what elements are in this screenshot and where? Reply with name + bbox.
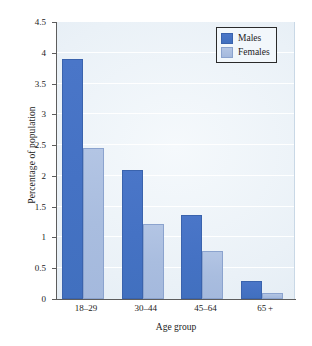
male-color-swatch	[221, 33, 233, 44]
y-axis-line	[56, 22, 57, 300]
y-tick-mark	[52, 84, 56, 85]
bar-females	[202, 251, 223, 299]
y-tick-mark	[52, 237, 56, 238]
bar-males	[181, 215, 202, 299]
bar-females	[83, 148, 104, 299]
y-tick-label: 0	[0, 295, 46, 304]
y-tick-label: 1.5	[0, 202, 46, 211]
y-tick-label: 4.5	[0, 18, 46, 27]
bar-males	[241, 281, 262, 299]
legend-label-males: Males	[238, 33, 261, 43]
gridline	[56, 113, 295, 114]
y-tick-mark	[52, 268, 56, 269]
legend-item-males: Males	[221, 31, 270, 45]
y-tick-mark	[52, 299, 56, 300]
bar-chart-figure: Percentage of population 00.511.522.533.…	[0, 0, 312, 346]
plot-right-border	[294, 22, 295, 299]
bar-males	[122, 170, 143, 299]
chart-legend: Males Females	[216, 27, 277, 63]
y-tick-label: 4	[0, 48, 46, 57]
y-tick-mark	[52, 114, 56, 115]
bar-males	[62, 59, 83, 299]
y-tick-label: 2.5	[0, 141, 46, 150]
y-tick-label: 3	[0, 110, 46, 119]
x-axis-line	[56, 299, 296, 300]
y-tick-label: 0.5	[0, 264, 46, 273]
y-tick-mark	[52, 53, 56, 54]
plot-area	[56, 22, 295, 299]
y-tick-mark	[52, 207, 56, 208]
female-color-swatch	[221, 47, 233, 58]
y-tick-label: 2	[0, 171, 46, 180]
gridline	[56, 83, 295, 84]
legend-item-females: Females	[221, 45, 270, 59]
x-tick-label: 65 +	[225, 303, 305, 314]
y-tick-label: 3.5	[0, 79, 46, 88]
bar-females	[143, 224, 164, 299]
y-tick-label: 1	[0, 233, 46, 242]
legend-label-females: Females	[238, 47, 270, 57]
y-tick-mark	[52, 145, 56, 146]
x-axis-title: Age group	[56, 322, 296, 332]
y-tick-mark	[52, 176, 56, 177]
y-tick-mark	[52, 22, 56, 23]
gridline	[56, 144, 295, 145]
